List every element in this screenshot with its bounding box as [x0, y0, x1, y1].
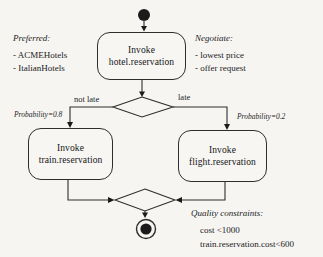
negotiate-annotation-title: Negotiate:: [195, 33, 246, 43]
preferred-annotation-item: - ItalianHotels: [13, 63, 67, 73]
negotiate-annotation: Negotiate: - lowest price - offer reques…: [195, 33, 246, 73]
flight-node-line1: Invoke: [209, 144, 236, 157]
arrowhead-into-final: [142, 213, 148, 219]
arrowhead-into-decision: [139, 92, 145, 98]
negotiate-annotation-item: - lowest price: [195, 50, 246, 60]
merge-diamond: [115, 189, 175, 211]
edge-decision-train: [70, 107, 113, 123]
arrowhead-flight-into-merge: [176, 197, 183, 203]
final-node-core: [140, 223, 151, 234]
quality-constraints-title: Quality constraints:: [191, 208, 294, 218]
hotel-node-line1: Invoke: [128, 44, 155, 57]
flight-node-line2: flight.reservation: [189, 156, 256, 169]
probability-flight-label: Probability=0.2: [237, 112, 285, 121]
activity-diagram: Invoke hotel.reservation Invoke train.re…: [0, 0, 323, 257]
not-late-edge-label: not late: [74, 94, 99, 104]
late-edge-label: late: [178, 92, 190, 102]
edge-decision-flight: [173, 107, 227, 125]
train-node-line2: train.reservation: [39, 154, 103, 167]
edge-train-merge: [68, 178, 108, 200]
invoke-train-reservation-node: Invoke train.reservation: [28, 128, 113, 180]
train-node-line1: Invoke: [57, 142, 84, 155]
quality-constraints-annotation: Quality constraints: cost <1000 train.re…: [191, 208, 294, 249]
preferred-annotation: Preferred: - ACMEHotels - ItalianHotels: [13, 33, 67, 73]
preferred-annotation-item: - ACMEHotels: [13, 50, 67, 60]
edge-flight-merge: [182, 180, 225, 200]
quality-constraints-item: cost <1000: [200, 225, 294, 235]
quality-constraints-item: train.reservation.cost<600: [200, 239, 294, 249]
invoke-hotel-reservation-node: Invoke hotel.reservation: [97, 32, 186, 80]
negotiate-annotation-item: - offer request: [195, 63, 246, 73]
probability-train-label: Probability=0.8: [14, 110, 62, 119]
decision-diamond: [113, 97, 173, 117]
arrowhead-into-hotel: [141, 26, 147, 32]
arrowhead-train-into-merge: [108, 197, 115, 203]
initial-node: [138, 9, 150, 21]
hotel-node-line2: hotel.reservation: [109, 56, 174, 69]
invoke-flight-reservation-node: Invoke flight.reservation: [178, 130, 267, 182]
preferred-annotation-title: Preferred:: [13, 33, 67, 43]
